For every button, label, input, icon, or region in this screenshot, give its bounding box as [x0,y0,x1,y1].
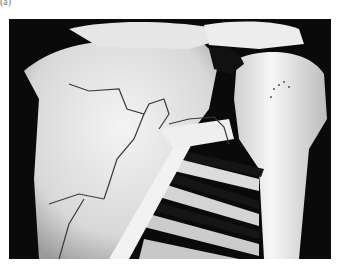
bone-rendering [9,19,331,259]
panel-label: (a) [0,0,11,7]
ct-shoulder-image [9,19,331,259]
